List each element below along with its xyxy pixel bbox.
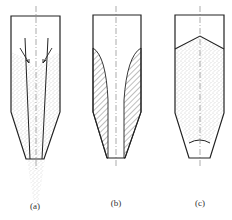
stagnant-zone-right-b	[124, 48, 141, 158]
panel-label-b: (b)	[111, 198, 122, 208]
bulk-material-c	[175, 36, 224, 143]
panel-label-c: (c)	[195, 198, 205, 208]
stagnant-zone-left-b	[93, 48, 108, 158]
bulk-material-a	[11, 52, 60, 159]
panel-label-a: (a)	[30, 201, 40, 211]
discharge-stream-a	[27, 160, 45, 205]
panel-a: (a)	[11, 6, 60, 211]
panel-c: (c)	[175, 6, 224, 208]
silo-flow-diagram: (a) (b) (c)	[0, 0, 232, 220]
panel-b: (b)	[93, 6, 141, 208]
